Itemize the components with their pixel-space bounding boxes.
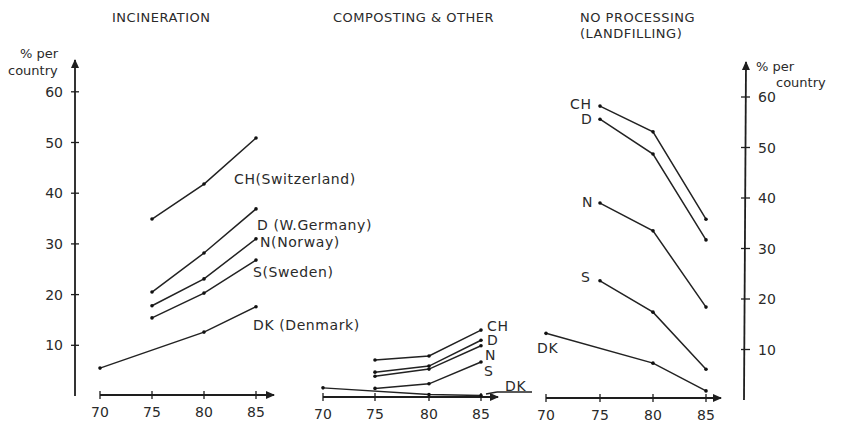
- series-n: [373, 344, 483, 378]
- x-tick-label: 80: [644, 407, 662, 423]
- series-s: [150, 258, 258, 319]
- x-tick-label: 70: [537, 407, 555, 423]
- y-tick-label-right: 10: [758, 342, 776, 358]
- series-label-n: N: [582, 194, 593, 210]
- series-label-dk: DK: [505, 378, 526, 394]
- y-tick-label-right: 40: [758, 190, 776, 206]
- y-tick-label: 60: [45, 84, 63, 100]
- figure-landfill-incineration-composting: 102030405060% percountry102030405060% pe…: [0, 0, 850, 436]
- series-n: [150, 237, 258, 308]
- x-tick-label: 70: [91, 404, 109, 420]
- x-tick-label: 80: [420, 406, 438, 422]
- panel-title: COMPOSTING & OTHER: [333, 10, 494, 25]
- series-label-s: S(Sweden): [253, 264, 334, 280]
- x-tick-label: 85: [697, 407, 715, 423]
- x-tick-label: 80: [195, 404, 213, 420]
- panel-landfilling: [544, 104, 721, 402]
- x-tick-label: 75: [591, 407, 609, 423]
- y-axis-unit-label-right: % per: [756, 59, 795, 74]
- series-label-s: S: [484, 363, 494, 379]
- series-label-d: D (W.Germany): [257, 217, 372, 233]
- x-tick-label: 85: [472, 406, 490, 422]
- y-tick-label: 40: [45, 185, 63, 201]
- y-tick-label: 20: [45, 287, 63, 303]
- y-axis-unit-label: % per: [20, 46, 59, 61]
- panel-title: (LANDFILLING): [580, 26, 682, 41]
- y-tick-label-right: 60: [758, 89, 776, 105]
- x-axis: [100, 391, 274, 399]
- series-label-dk: DK: [537, 340, 558, 356]
- panel-title: NO PROCESSING: [580, 10, 695, 25]
- x-axis: [546, 394, 721, 402]
- y-tick-label: 30: [45, 236, 63, 252]
- y-axis-unit-label: country: [8, 63, 58, 78]
- y-axis-unit-label-right: country: [776, 75, 826, 90]
- series-label-n: N: [485, 347, 496, 363]
- y-tick-label-right: 20: [758, 291, 776, 307]
- series-s: [598, 279, 708, 371]
- series-ch: [373, 328, 483, 362]
- y-tick-label-right: 30: [758, 241, 776, 257]
- series-dk: [321, 386, 532, 397]
- series-label-n: N(Norway): [260, 234, 340, 250]
- x-axis: [323, 393, 498, 401]
- x-tick-label: 75: [143, 404, 161, 420]
- series-ch: [598, 104, 708, 221]
- panel-title: INCINERATION: [112, 10, 211, 25]
- series-label-d: D: [487, 332, 498, 348]
- y-tick-label-right: 50: [758, 140, 776, 156]
- series-label-s: S: [581, 269, 591, 285]
- chart-canvas: 102030405060% percountry102030405060% pe…: [0, 0, 850, 436]
- series-d: [598, 117, 708, 241]
- x-tick-label: 70: [314, 406, 332, 422]
- y-tick-label: 10: [45, 337, 63, 353]
- x-tick-label: 85: [247, 404, 265, 420]
- right-y-axis: [741, 62, 750, 400]
- series-label-dk: DK (Denmark): [253, 317, 360, 333]
- x-tick-label: 75: [366, 406, 384, 422]
- left-y-axis: [71, 60, 79, 396]
- series-dk: [544, 332, 708, 393]
- y-tick-label: 50: [45, 135, 63, 151]
- panel-composting: [321, 328, 532, 401]
- series-label-ch: CH: [570, 96, 592, 112]
- series-dk: [98, 305, 258, 370]
- series-label-d: D: [581, 111, 592, 127]
- series-label-ch: CH(Switzerland): [234, 171, 356, 187]
